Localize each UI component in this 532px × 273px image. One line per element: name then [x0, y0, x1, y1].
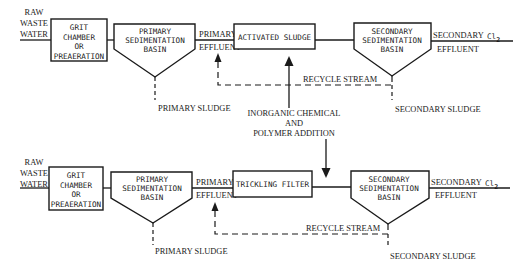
top-flow: RAW WASTE WATER GRIT CHAMBER OR PREAERAT… — [20, 8, 513, 114]
top-chlorine-label: Cl2 — [487, 32, 500, 44]
top-secondary-basin-label-1: SECONDARY — [371, 27, 413, 36]
top-secondary-effluent-label-1: SECONDARY — [433, 31, 484, 40]
bottom-secondary-basin-label-1: SECONDARY — [368, 175, 410, 184]
top-primary-basin-label-1: PRIMARY — [139, 27, 171, 36]
bottom-secondary-effluent-label-1: SECONDARY — [431, 178, 482, 187]
top-secondary-effluent-label-2: EFFLUENT — [437, 45, 479, 54]
bottom-primary-basin-label-1: PRIMARY — [136, 175, 168, 184]
bottom-secondary-basin-label-3: BASIN — [378, 193, 401, 202]
top-secondary-sludge-label: SECONDARY SLUDGE — [395, 105, 481, 114]
bottom-flow: RAW WASTE WATER GRIT CHAMBER OR PREAERAT… — [20, 158, 510, 261]
chem-label-2: AND — [285, 119, 303, 128]
top-grit-label-3: OR — [74, 42, 84, 51]
top-primary-effluent-label-1: PRIMARY — [199, 30, 237, 39]
top-activated-sludge-label: ACTIVATED SLUDGE — [238, 33, 312, 42]
bottom-raw-label-2: WASTE — [20, 169, 48, 178]
bottom-grit-label-3: OR — [71, 190, 81, 199]
bottom-grit-label-4: PREAERATION — [51, 200, 102, 209]
bottom-raw-label-1: RAW — [25, 158, 44, 167]
top-primary-basin-label-2: SEDIMENTATION — [125, 36, 185, 45]
top-primary-basin-label-3: BASIN — [144, 45, 167, 54]
bottom-primary-basin-label-3: BASIN — [141, 193, 164, 202]
bottom-chlorine-label: Cl2 — [485, 179, 498, 191]
bottom-secondary-sludge-label: SECONDARY SLUDGE — [390, 252, 476, 261]
top-secondary-basin-label-2: SEDIMENTATION — [362, 36, 422, 45]
top-recycle-arrowhead-icon — [215, 53, 222, 62]
top-raw-label-3: WATER — [20, 30, 48, 39]
top-raw-label-2: WASTE — [20, 19, 48, 28]
chem-label-3: POLYMER ADDITION — [253, 129, 335, 138]
bottom-primary-basin-label-2: SEDIMENTATION — [122, 184, 182, 193]
chem-down-arrowhead-icon — [322, 168, 331, 178]
top-primary-sludge-label: PRIMARY SLUDGE — [158, 104, 231, 113]
bottom-recycle-stream-label: RECYCLE STREAM — [306, 224, 381, 233]
bottom-grit-label-1: GRIT — [67, 171, 86, 180]
bottom-trickling-filter-label: TRICKLING FILTER — [236, 180, 310, 189]
process-flow-diagram: RAW WASTE WATER GRIT CHAMBER OR PREAERAT… — [0, 0, 532, 273]
bottom-primary-effluent-label-1: PRIMARY — [196, 178, 234, 187]
top-secondary-basin-label-3: BASIN — [381, 45, 404, 54]
top-grit-label-2: CHAMBER — [63, 33, 95, 42]
chem-up-arrowhead-icon — [285, 56, 294, 66]
bottom-primary-effluent-label-2: EFFLUENT — [196, 191, 238, 200]
bottom-recycle-arrowhead-icon — [212, 202, 219, 211]
bottom-secondary-basin-label-2: SEDIMENTATION — [359, 184, 419, 193]
chem-label-1: INORGANIC CHEMICAL — [248, 109, 341, 118]
bottom-grit-label-2: CHAMBER — [60, 181, 92, 190]
bottom-secondary-effluent-label-2: EFFLUENT — [435, 191, 477, 200]
top-grit-label-1: GRIT — [70, 23, 89, 32]
top-recycle-stream-label: RECYCLE STREAM — [303, 75, 378, 84]
top-grit-label-4: PREAERATION — [54, 52, 105, 61]
bottom-primary-sludge-label: PRIMARY SLUDGE — [155, 247, 228, 256]
top-raw-label-1: RAW — [25, 8, 44, 17]
